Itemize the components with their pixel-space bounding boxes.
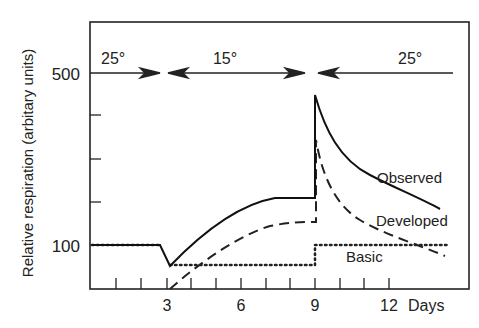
x-tick-9: 9 bbox=[311, 297, 320, 314]
period-label-1: 25° bbox=[101, 50, 125, 67]
period-label-2: 15° bbox=[213, 50, 237, 67]
x-ticks bbox=[116, 278, 389, 289]
y-axis-label: Relative respiration (arbitary units) bbox=[19, 49, 36, 277]
y-ticks bbox=[90, 115, 101, 245]
respiration-chart: 500 100 3 6 9 12 Days Relative respirati… bbox=[0, 0, 479, 328]
temperature-periods bbox=[90, 68, 453, 78]
x-axis-unit: Days bbox=[408, 297, 444, 314]
label-developed: Developed bbox=[376, 212, 448, 229]
x-tick-6: 6 bbox=[237, 297, 246, 314]
x-tick-3: 3 bbox=[163, 297, 172, 314]
period-label-3: 25° bbox=[398, 50, 422, 67]
series-basic bbox=[92, 245, 447, 265]
label-basic: Basic bbox=[346, 248, 383, 265]
y-tick-500: 500 bbox=[52, 65, 80, 84]
label-observed: Observed bbox=[377, 169, 442, 186]
x-tick-12: 12 bbox=[380, 297, 398, 314]
y-tick-100: 100 bbox=[52, 237, 80, 256]
